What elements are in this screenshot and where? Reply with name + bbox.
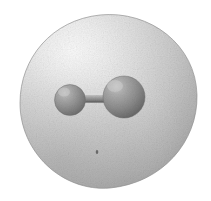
atom-left-highlight: [58, 87, 70, 96]
atom-right: [103, 76, 145, 118]
molecular-isosurface-figure: Diatomic molecule enclosed in electron d…: [0, 0, 211, 201]
atom-right-highlight: [107, 80, 123, 92]
figure-canvas: [0, 0, 211, 201]
render-artifact-speck: [96, 150, 99, 154]
atom-left: [55, 85, 86, 116]
